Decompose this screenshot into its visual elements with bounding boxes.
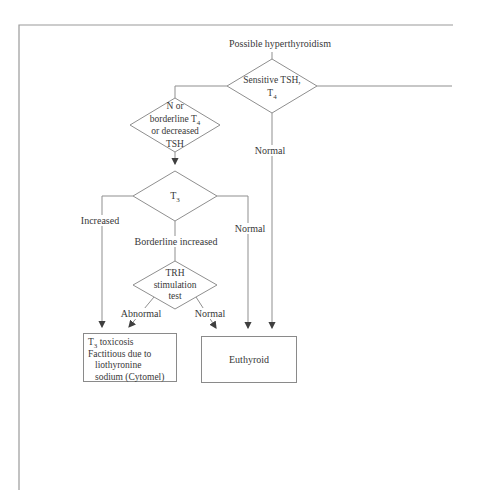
result-box-t3-toxicosis: T3 toxicosis Factitious due to liothyron… (83, 333, 177, 382)
edge-label-t3-normal: Normal (233, 223, 268, 234)
decision-trh-line1: TRH (154, 268, 197, 280)
decision-borderline-t4-label: N or borderline T4 or decreased TSH (150, 100, 201, 150)
decision-sensitive-tsh-line1: Sensitive TSH, (243, 74, 300, 87)
figure-frame (19, 25, 453, 490)
subscript: 3 (176, 196, 180, 204)
result-box-euthyroid: Euthyroid (201, 336, 297, 383)
decision-borderline-t4-line2: borderline T4 (150, 113, 201, 126)
t3-toxicosis-line4: sodium (Cytomel) (88, 372, 174, 384)
edge-tsh-to-borderline (175, 86, 227, 98)
edge-label-tsh-normal: Normal (253, 145, 288, 156)
decision-borderline-t4-line3: or decreased (150, 125, 201, 138)
flowchart-figure: Possible hyperthyroidism Sensitive TSH, … (0, 0, 478, 501)
decision-trh-line3: test (154, 291, 197, 303)
edge-label-trh-normal: Normal (193, 308, 228, 319)
subscript: 4 (273, 93, 277, 101)
decision-borderline-t4-line1: N or (150, 100, 201, 113)
decision-borderline-t4-line4: TSH (150, 138, 201, 151)
decision-sensitive-tsh-line2: T4 (243, 87, 300, 100)
t3-toxicosis-line2: Factitious due to (88, 349, 174, 361)
edge-label-increased: Increased (79, 215, 121, 226)
decision-trh-label: TRH stimulation test (154, 268, 197, 303)
decision-sensitive-tsh-label: Sensitive TSH, T4 (243, 74, 300, 100)
t3-toxicosis-line3: liothyronine (88, 360, 174, 372)
chart-title: Possible hyperthyroidism (229, 38, 331, 49)
decision-trh-line2: stimulation (154, 279, 197, 291)
flowchart-lines (0, 0, 478, 501)
edge-label-borderline-increased: Borderline increased (132, 236, 219, 247)
edge-label-abnormal: Abnormal (119, 308, 164, 319)
decision-t3-label: T3 (170, 190, 180, 202)
t3-toxicosis-line1: T3 toxicosis (88, 337, 174, 349)
euthyroid-label: Euthyroid (229, 354, 269, 365)
